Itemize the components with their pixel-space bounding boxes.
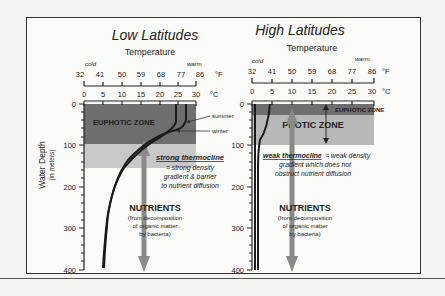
svg-text:0: 0 bbox=[72, 100, 76, 109]
svg-text:gradient & barrier: gradient & barrier bbox=[164, 173, 217, 181]
cold-label: cold bbox=[85, 61, 97, 67]
svg-text:obstruct nutrient diffusion: obstruct nutrient diffusion bbox=[275, 170, 351, 177]
svg-text:by bacteria): by bacteria) bbox=[289, 231, 320, 237]
svg-text:15: 15 bbox=[137, 90, 145, 99]
svg-text:86: 86 bbox=[196, 70, 204, 79]
svg-text:°C: °C bbox=[210, 90, 219, 99]
svg-text:59: 59 bbox=[308, 67, 316, 76]
svg-text:100: 100 bbox=[231, 141, 244, 150]
svg-text:by bacteria): by bacteria) bbox=[139, 231, 170, 237]
celsius-scale: 0 5 10 15 20 25 30 °C bbox=[82, 90, 219, 99]
svg-text:gradient which does not: gradient which does not bbox=[279, 161, 352, 169]
svg-text:10: 10 bbox=[288, 87, 296, 96]
depth-scale-right: 0 100 200 300 400 bbox=[231, 100, 244, 275]
svg-text:= strong density: = strong density bbox=[166, 164, 215, 172]
svg-text:100: 100 bbox=[63, 141, 76, 150]
temperature-label: Temperature bbox=[287, 43, 338, 53]
temperature-label: Temperature bbox=[125, 47, 176, 57]
svg-text:Water Depth: Water Depth bbox=[37, 141, 47, 189]
svg-text:400: 400 bbox=[63, 266, 76, 275]
winter-label: winter bbox=[211, 128, 228, 134]
warm-label: warm bbox=[187, 61, 202, 67]
svg-text:41: 41 bbox=[96, 70, 104, 79]
svg-text:68: 68 bbox=[328, 67, 336, 76]
svg-text:59: 59 bbox=[137, 70, 145, 79]
svg-text:68: 68 bbox=[157, 70, 165, 79]
svg-text:°F: °F bbox=[382, 67, 390, 76]
svg-text:300: 300 bbox=[231, 224, 244, 233]
svg-text:= weak density: = weak density bbox=[325, 152, 371, 160]
svg-text:32: 32 bbox=[76, 70, 84, 79]
fahrenheit-scale: 32 41 50 59 68 77 86 °F bbox=[248, 67, 390, 76]
svg-text:77: 77 bbox=[348, 67, 356, 76]
svg-text:300: 300 bbox=[63, 224, 76, 233]
svg-text:200: 200 bbox=[231, 183, 244, 192]
svg-text:to nutrient diffusion: to nutrient diffusion bbox=[161, 182, 219, 189]
panel-high-latitudes: High Latitudes Temperature cold warm 32 … bbox=[231, 22, 391, 275]
svg-text:41: 41 bbox=[268, 67, 276, 76]
summer-label: summer bbox=[212, 113, 234, 119]
svg-text:30: 30 bbox=[368, 87, 376, 96]
svg-text:of organic matter: of organic matter bbox=[132, 223, 177, 229]
thermocline-desc: weak thermocline bbox=[263, 152, 322, 159]
panel-title: High Latitudes bbox=[255, 22, 345, 38]
euphotic-zone-label: EUPHOTIC ZONE bbox=[335, 107, 384, 113]
svg-text:of organic matter: of organic matter bbox=[282, 223, 327, 229]
svg-text:32: 32 bbox=[248, 67, 256, 76]
svg-text:0: 0 bbox=[240, 100, 244, 109]
svg-text:50: 50 bbox=[118, 70, 126, 79]
panel-low-latitudes: Low Latitudes Temperature cold warm 32 4… bbox=[37, 27, 234, 275]
svg-text:(in meters): (in meters) bbox=[48, 149, 56, 180]
svg-text:15: 15 bbox=[308, 87, 316, 96]
warm-label: warm bbox=[355, 56, 370, 62]
svg-text:50: 50 bbox=[288, 67, 296, 76]
svg-text:10: 10 bbox=[118, 90, 126, 99]
svg-text:°F: °F bbox=[215, 70, 223, 79]
svg-text:86: 86 bbox=[368, 67, 376, 76]
celsius-scale: 0 5 10 15 20 25 30 °C bbox=[250, 87, 391, 96]
panel-title: Low Latitudes bbox=[112, 27, 198, 43]
svg-text:(from decomposition: (from decomposition bbox=[278, 215, 332, 221]
depth-scale-left: 0 100 200 300 400 bbox=[63, 100, 76, 275]
nutrients-label: NUTRIENTS bbox=[129, 203, 181, 213]
depth-axis-label: Water Depth (in meters) bbox=[37, 141, 56, 189]
svg-text:20: 20 bbox=[156, 90, 164, 99]
thermocline-diagram: Low Latitudes Temperature cold warm 32 4… bbox=[0, 0, 445, 296]
svg-text:0: 0 bbox=[250, 87, 254, 96]
svg-text:(from decomposition: (from decomposition bbox=[128, 215, 182, 221]
svg-text:200: 200 bbox=[63, 183, 76, 192]
cold-label: cold bbox=[252, 58, 264, 64]
svg-text:77: 77 bbox=[177, 70, 185, 79]
svg-text:400: 400 bbox=[231, 266, 244, 275]
fahrenheit-scale: 32 41 50 59 68 77 86 °F bbox=[76, 70, 223, 79]
thermocline-title: strong thermocline bbox=[156, 153, 224, 162]
euphotic-zone-label: EUPHOTIC ZONE bbox=[93, 118, 155, 127]
svg-text:25: 25 bbox=[174, 90, 182, 99]
svg-text:5: 5 bbox=[270, 87, 274, 96]
svg-text:5: 5 bbox=[101, 90, 105, 99]
nutrients-label: NUTRIENTS bbox=[279, 203, 331, 213]
svg-text:30: 30 bbox=[192, 90, 200, 99]
svg-text:0: 0 bbox=[82, 90, 86, 99]
svg-text:°C: °C bbox=[382, 87, 391, 96]
svg-text:25: 25 bbox=[348, 87, 356, 96]
svg-text:20: 20 bbox=[328, 87, 336, 96]
